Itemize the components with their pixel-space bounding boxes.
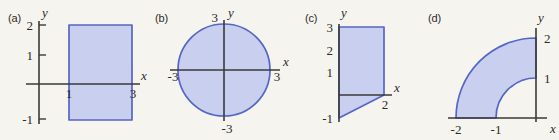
panel-d-region-quarter-annulus <box>456 38 536 118</box>
panel-c: (c) y x 3 2 1 -1 2 <box>298 0 423 140</box>
panel-c-region-trapezoid <box>339 27 384 118</box>
panel-c-y-ticklabel-2: 2 <box>327 43 334 58</box>
panel-c-plot: y x 3 2 1 -1 2 <box>298 0 423 140</box>
panel-d: (d) y x 2 1 -2 -1 <box>420 0 559 140</box>
panel-b-x-ticklabel-minus-3: -3 <box>168 69 179 84</box>
panel-a: (a) y x 2 1 -1 1 3 <box>0 0 150 140</box>
panel-a-y-ticklabel-2: 2 <box>27 18 34 33</box>
panel-a-plot: y x 2 1 -1 1 3 <box>0 0 150 140</box>
panel-d-x-ticklabel-minus-1: -1 <box>491 122 502 137</box>
panel-b-y-axis-label: y <box>226 5 234 20</box>
panel-b-x-ticklabel-3: 3 <box>274 69 281 84</box>
panel-d-y-ticklabel-2: 2 <box>544 31 551 46</box>
figure-panels-container: (a) y x 2 1 -1 1 3 (b) <box>0 0 559 140</box>
panel-a-y-axis-label: y <box>40 5 48 20</box>
panel-d-x-axis-label: x <box>549 121 556 136</box>
panel-b-x-axis-label: x <box>282 54 289 69</box>
panel-d-plot: y x 2 1 -2 -1 <box>420 0 559 140</box>
panel-c-x-ticklabel-2: 2 <box>382 97 389 112</box>
panel-c-y-ticklabel-3: 3 <box>327 20 334 35</box>
panel-a-y-ticklabel-1: 1 <box>27 48 34 63</box>
panel-a-x-ticklabel-3: 3 <box>130 86 137 101</box>
panel-a-region-rectangle <box>69 25 132 120</box>
panel-c-y-ticklabel-1: 1 <box>327 65 334 80</box>
panel-c-x-axis-label: x <box>393 80 400 95</box>
panel-a-x-axis-label: x <box>140 68 147 83</box>
panel-b-y-ticklabel-3: 3 <box>212 10 219 25</box>
panel-b-y-ticklabel-minus-3: -3 <box>222 121 233 136</box>
panel-d-y-ticklabel-1: 1 <box>544 71 551 86</box>
panel-b-plot: y x -3 3 3 -3 <box>148 0 300 140</box>
panel-d-x-ticklabel-minus-2: -2 <box>451 122 462 137</box>
panel-d-y-axis-label: y <box>536 10 544 25</box>
panel-a-x-ticklabel-1: 1 <box>66 86 73 101</box>
panel-c-y-axis-label: y <box>339 5 347 20</box>
panel-a-y-ticklabel-minus-1: -1 <box>22 112 33 127</box>
panel-b: (b) y x -3 3 3 -3 <box>148 0 300 140</box>
panel-c-y-ticklabel-minus-1: -1 <box>322 111 333 126</box>
